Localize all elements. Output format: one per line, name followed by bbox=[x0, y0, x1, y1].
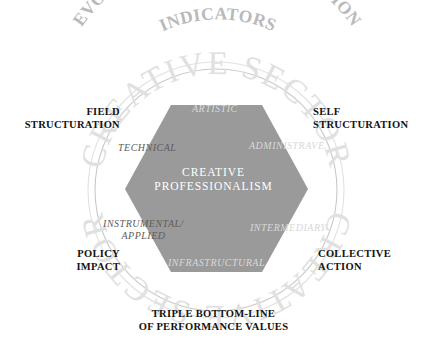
outer-label-collective-action: COLLECTIVE ACTION bbox=[318, 248, 426, 273]
outer-label-triple-bottom-line1: TRIPLE BOTTOM-LINE bbox=[0, 308, 427, 321]
outer-label-self-structuration-line2: STRUCTURATION bbox=[313, 119, 427, 132]
diagram-canvas: CREATIVE SECTOR CREATIVE SECTOR EVOLVING… bbox=[0, 0, 427, 348]
facet-label-artistic: ARTISTIC bbox=[192, 103, 238, 115]
outer-label-collective-action-line1: COLLECTIVE bbox=[318, 248, 426, 261]
creative-professionalism-hexagon bbox=[125, 105, 308, 272]
outer-label-triple-bottom-line2: OF PERFORMANCE VALUES bbox=[0, 321, 427, 334]
outer-label-policy-impact-line1: POLICY bbox=[10, 248, 120, 261]
outer-label-policy-impact: POLICY IMPACT bbox=[10, 248, 120, 273]
facet-label-instrumental: INSTRUMENTAL/ bbox=[96, 218, 191, 230]
facet-label-intermediary: INTERMEDIARY bbox=[250, 222, 326, 234]
outer-label-triple-bottom-line: TRIPLE BOTTOM-LINE OF PERFORMANCE VALUES bbox=[0, 308, 427, 333]
outer-label-self-structuration: SELF STRUCTURATION bbox=[313, 106, 427, 131]
outer-label-self-structuration-line1: SELF bbox=[313, 106, 427, 119]
facet-label-applied: APPLIED bbox=[96, 230, 191, 242]
facet-label-instrumental-applied: INSTRUMENTAL/ APPLIED bbox=[96, 218, 191, 242]
facet-label-technical: TECHNICAL bbox=[118, 142, 176, 154]
outer-label-collective-action-line2: ACTION bbox=[318, 261, 426, 274]
arc-title-inner-text: INDICATORS bbox=[156, 3, 279, 35]
facet-label-administrave: ADMINISTRAVE bbox=[249, 140, 325, 152]
arc-title-inner: INDICATORS bbox=[156, 3, 279, 35]
facet-label-infrastructural: INFRASTRUCTURAL bbox=[168, 257, 265, 269]
outer-label-field-structuration-line2: STRUCTURATION bbox=[10, 119, 120, 132]
outer-label-field-structuration: FIELD STRUCTURATION bbox=[10, 106, 120, 131]
outer-label-policy-impact-line2: IMPACT bbox=[10, 261, 120, 274]
outer-label-field-structuration-line1: FIELD bbox=[10, 106, 120, 119]
diagram-vector-layer: CREATIVE SECTOR CREATIVE SECTOR EVOLVING… bbox=[0, 0, 427, 348]
